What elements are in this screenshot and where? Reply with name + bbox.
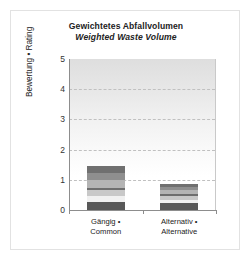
bar-segment-segment-1 — [87, 202, 125, 210]
bar-segment-segment-5 — [87, 180, 125, 188]
x-tick-label-line1: Alternativ • — [134, 217, 224, 227]
y-axis-line — [69, 59, 70, 211]
x-tick-label-1: Alternativ •Alternative — [134, 217, 224, 236]
y-tick-label-1: 1 — [45, 176, 65, 184]
x-tick-label-line2: Alternative — [134, 227, 224, 237]
bar-1[interactable] — [160, 59, 198, 210]
chart-figure: Gewichtetes Abfallvolumen Weighted Waste… — [10, 10, 240, 250]
y-tick-label-0: 0 — [45, 206, 65, 214]
x-axis-tick — [216, 210, 217, 214]
bar-segment-segment-6 — [87, 173, 125, 180]
bar-0[interactable] — [87, 59, 125, 210]
bar-segment-segment-1 — [160, 203, 198, 210]
x-axis-tick — [143, 210, 144, 214]
y-tick-label-4: 4 — [45, 85, 65, 93]
x-axis-tick — [69, 210, 70, 214]
y-axis-tick-labels: 543210 — [41, 11, 65, 251]
y-tick-label-5: 5 — [45, 55, 65, 63]
y-tick-label-3: 3 — [45, 115, 65, 123]
y-axis-title: Bewertung • Rating — [25, 27, 34, 97]
y-tick-label-2: 2 — [45, 146, 65, 154]
bar-segment-segment-7 — [87, 166, 125, 173]
